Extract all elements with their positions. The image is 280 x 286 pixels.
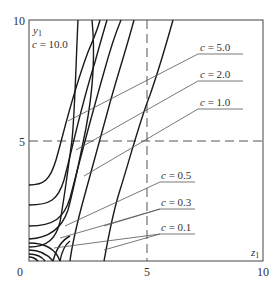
contour-curve <box>29 257 38 261</box>
x-axis-label: z1 <box>250 246 259 260</box>
label-c05: c = 0.5 <box>161 169 192 181</box>
y-axis-label: y1 <box>32 24 42 38</box>
label-c01: c = 0.1 <box>161 221 191 233</box>
label-c03: c = 0.3 <box>161 196 192 208</box>
label-c10: c = 10.0 <box>32 38 68 50</box>
x-tick-10: 10 <box>257 265 269 279</box>
leader-line-c01b <box>104 234 160 250</box>
x-tick-5: 5 <box>144 265 150 279</box>
y-tick-10: 10 <box>13 14 25 28</box>
label-c1: c = 1.0 <box>200 96 231 108</box>
contour-diagram: 0 5 10 10 5 y1 z1 c = 10.0 c = 5.0 c = 2… <box>0 0 280 286</box>
label-c2: c = 2.0 <box>200 68 231 80</box>
leader-line-c2 <box>76 81 198 150</box>
contour-curve <box>29 250 53 261</box>
contour-curve <box>29 20 78 247</box>
y-tick-5: 5 <box>19 135 25 149</box>
x-tick-0: 0 <box>17 265 23 279</box>
contour-curve <box>29 20 94 239</box>
contour-curve <box>29 20 121 226</box>
label-c5: c = 5.0 <box>200 41 231 53</box>
